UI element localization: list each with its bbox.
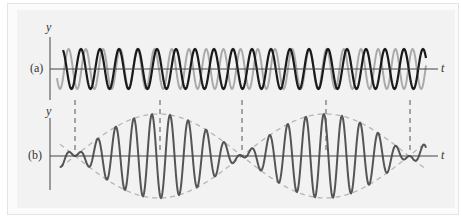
panel-a-plot [50, 37, 438, 100]
panel-a-t-label: t [441, 61, 444, 76]
panel-b-plot [50, 114, 438, 198]
panel-b-y-label: y [46, 104, 51, 119]
beats-diagram [0, 0, 462, 220]
panel-a-y-label: y [46, 20, 51, 35]
panel-b-label: (b) [28, 148, 42, 163]
envelope-upper [60, 114, 426, 156]
panel-a-label: (a) [30, 61, 43, 76]
panel-b-t-label: t [441, 148, 444, 163]
